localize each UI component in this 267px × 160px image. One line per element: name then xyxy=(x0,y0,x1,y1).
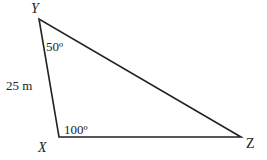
vertex-label-x: X xyxy=(37,140,47,155)
vertex-label-z: Z xyxy=(246,136,255,151)
triangle-xyz xyxy=(39,19,241,137)
vertex-label-y: Y xyxy=(31,1,41,16)
angle-label-x: 100º xyxy=(64,122,88,137)
triangle-figure: Y X Z 25 m 50º 100º xyxy=(0,0,267,160)
triangle-diagram: Y X Z 25 m 50º 100º xyxy=(0,0,267,160)
angle-label-y: 50º xyxy=(46,39,63,54)
side-label-yx: 25 m xyxy=(6,78,32,93)
